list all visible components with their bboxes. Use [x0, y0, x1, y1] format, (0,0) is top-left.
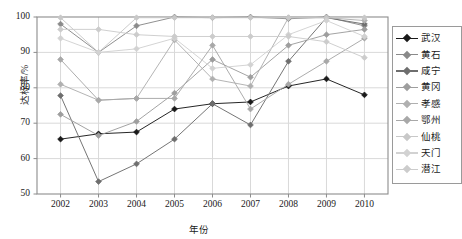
legend-marker-icon [396, 65, 418, 77]
legend-item-label: 鄂州 [418, 115, 441, 125]
legend-item-label: 黄石 [418, 50, 441, 60]
legend-diamond-icon [403, 165, 411, 173]
legend-item-鄂州[interactable]: 鄂州 [396, 112, 459, 128]
legend-item-label: 潜江 [418, 164, 441, 174]
legend-diamond-icon [403, 34, 411, 42]
data-point [58, 111, 64, 117]
legend-marker-icon [396, 114, 418, 126]
chart-root: 达标率/% 年份 5060708090100 20022003200420052… [0, 0, 462, 239]
data-point [362, 55, 368, 61]
data-point [248, 99, 254, 105]
data-point [248, 106, 254, 112]
data-point [134, 23, 140, 29]
legend-item-label: 孝感 [418, 99, 441, 109]
data-point [362, 26, 368, 32]
legend-marker-icon [396, 32, 418, 44]
data-point [324, 76, 330, 82]
legend-diamond-icon [403, 149, 411, 157]
legend-item-label: 黄冈 [418, 82, 441, 92]
legend-item-武汉[interactable]: 武汉 [396, 30, 459, 46]
data-point [134, 161, 140, 167]
legend-diamond-icon [403, 50, 411, 58]
data-point [324, 39, 330, 45]
data-point [210, 34, 216, 40]
legend-marker-icon [396, 81, 418, 93]
data-point [58, 26, 64, 32]
legend-marker-icon [396, 163, 418, 175]
legend-item-黄石[interactable]: 黄石 [396, 46, 459, 62]
legend-diamond-icon [403, 83, 411, 91]
legend-item-label: 咸宁 [418, 66, 441, 76]
legend-item-潜江[interactable]: 潜江 [396, 161, 459, 177]
legend-diamond-icon [403, 100, 411, 108]
legend-item-label: 仙桃 [418, 132, 441, 142]
data-point [96, 26, 102, 32]
data-point [248, 34, 254, 40]
data-point [134, 46, 140, 52]
data-point [96, 179, 102, 185]
legend-item-label: 天门 [418, 148, 441, 158]
legend-diamond-icon [403, 116, 411, 124]
data-point [58, 136, 64, 142]
data-point [324, 58, 330, 64]
data-point [172, 106, 178, 112]
legend-item-仙桃[interactable]: 仙桃 [396, 128, 459, 144]
data-point [58, 35, 64, 41]
data-point [58, 81, 64, 87]
legend-diamond-icon [403, 132, 411, 140]
legend-marker-icon [396, 147, 418, 159]
legend-item-天门[interactable]: 天门 [396, 145, 459, 161]
legend-diamond-icon [403, 67, 411, 75]
data-point [324, 32, 330, 38]
data-point [362, 92, 368, 98]
data-point [134, 96, 140, 102]
legend-item-label: 武汉 [418, 33, 441, 43]
data-point [134, 32, 140, 38]
legend-item-孝感[interactable]: 孝感 [396, 96, 459, 112]
chart-legend: 武汉黄石咸宁黄冈孝感鄂州仙桃天门潜江 [392, 26, 462, 184]
data-point [134, 129, 140, 135]
legend-marker-icon [396, 131, 418, 143]
data-point [58, 93, 64, 99]
data-point [210, 15, 216, 21]
legend-marker-icon [396, 98, 418, 110]
legend-item-咸宁[interactable]: 咸宁 [396, 63, 459, 79]
legend-marker-icon [396, 49, 418, 61]
legend-item-黄冈[interactable]: 黄冈 [396, 79, 459, 95]
